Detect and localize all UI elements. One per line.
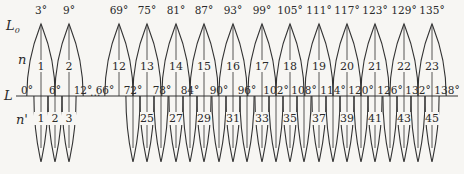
lower-arch bbox=[212, 96, 226, 162]
lower-arch: 41 bbox=[368, 96, 382, 162]
base-axis-label: L bbox=[3, 88, 13, 103]
lower-arch: 27 bbox=[169, 96, 183, 162]
lower-arch: 1 bbox=[34, 96, 48, 162]
base-tick-label: 108° bbox=[291, 84, 316, 96]
upper-n-label: 22 bbox=[397, 60, 411, 73]
upper-row-label: n bbox=[18, 52, 26, 67]
lower-arch: 43 bbox=[397, 96, 411, 162]
lower-row-label: n' bbox=[16, 112, 28, 127]
lower-arch: 2 bbox=[48, 96, 62, 162]
upper-n-label: 15 bbox=[197, 60, 211, 73]
upper-arch: 117°20 bbox=[333, 4, 361, 96]
lower-n-label: 35 bbox=[283, 112, 297, 125]
lower-arch: 39 bbox=[340, 96, 354, 162]
upper-n-label: 1 bbox=[38, 60, 45, 73]
lower-arch: 35 bbox=[283, 96, 297, 162]
upper-arch: 3°1 bbox=[27, 4, 55, 96]
lower-arch bbox=[183, 96, 197, 162]
upper-axis-label: L0 bbox=[5, 18, 20, 35]
upper-arch: 105°18 bbox=[276, 4, 304, 96]
lower-n-label: 31 bbox=[226, 112, 240, 125]
upper-n-label: 2 bbox=[66, 60, 73, 73]
lower-arch bbox=[240, 96, 254, 162]
upper-peak-label: 129° bbox=[391, 4, 416, 16]
upper-peak-label: 9° bbox=[63, 4, 75, 16]
lower-arches-layer: 1232527293133353739414345 bbox=[34, 96, 439, 162]
upper-n-label: 14 bbox=[169, 60, 183, 73]
upper-arch: 129°22 bbox=[390, 4, 418, 96]
lower-n-label: 27 bbox=[169, 112, 183, 125]
upper-arch: 9°2 bbox=[55, 4, 83, 96]
upper-n-label: 19 bbox=[312, 60, 326, 73]
upper-peak-label: 117° bbox=[334, 4, 359, 16]
lower-arch bbox=[383, 96, 397, 162]
upper-peak-label: 3° bbox=[35, 4, 47, 16]
upper-peak-label: 75° bbox=[138, 4, 157, 16]
lower-arch bbox=[126, 96, 140, 162]
upper-peak-label: 105° bbox=[277, 4, 302, 16]
base-tick-label: 114° bbox=[320, 84, 345, 96]
lower-n-label: 41 bbox=[368, 112, 382, 125]
upper-arch: 111°19 bbox=[305, 4, 333, 96]
upper-arch: 81°14 bbox=[162, 4, 190, 96]
lower-n-label: 39 bbox=[340, 112, 354, 125]
base-tick-label: 102° bbox=[263, 84, 288, 96]
upper-arch: 87°15 bbox=[190, 4, 218, 96]
upper-arch: 135°23 bbox=[418, 4, 446, 96]
upper-n-label: 21 bbox=[368, 60, 382, 73]
upper-peak-label: 135° bbox=[419, 4, 444, 16]
upper-peak-label: 99° bbox=[253, 4, 272, 16]
lower-arch bbox=[326, 96, 340, 162]
base-tick-label: 72° bbox=[124, 84, 143, 96]
upper-arch: 69°12 bbox=[105, 4, 133, 96]
lower-n-label: 25 bbox=[140, 112, 154, 125]
upper-n-label: 17 bbox=[255, 60, 269, 73]
lower-n-label: 29 bbox=[197, 112, 211, 125]
lower-arch: 29 bbox=[197, 96, 211, 162]
lower-n-label: 43 bbox=[397, 112, 411, 125]
base-tick-label: 126° bbox=[377, 84, 402, 96]
base-tick-label: 138° bbox=[434, 84, 459, 96]
upper-arch: 93°16 bbox=[219, 4, 247, 96]
upper-n-label: 16 bbox=[226, 60, 240, 73]
upper-peak-label: 87° bbox=[195, 4, 214, 16]
base-tick-label: 0° bbox=[21, 84, 33, 96]
base-tick-label: 120° bbox=[348, 84, 373, 96]
upper-arch: 99°17 bbox=[248, 4, 276, 96]
upper-peak-label: 123° bbox=[362, 4, 387, 16]
lower-n-label: 33 bbox=[255, 112, 269, 125]
base-tick-label: 90° bbox=[210, 84, 229, 96]
upper-peak-label: 69° bbox=[110, 4, 129, 16]
base-tick-label: 96° bbox=[238, 84, 257, 96]
upper-n-label: 13 bbox=[140, 60, 154, 73]
lower-arch: 45 bbox=[425, 96, 439, 162]
lower-n-label: 45 bbox=[425, 112, 439, 125]
lower-arch: 37 bbox=[312, 96, 326, 162]
lower-arch: 31 bbox=[226, 96, 240, 162]
base-tick-label: 132° bbox=[405, 84, 430, 96]
lower-arch bbox=[154, 96, 168, 162]
upper-n-label: 12 bbox=[112, 60, 126, 73]
base-tick-labels: 0°6°12°66°72°78°84°90°96°102°108°114°120… bbox=[21, 84, 460, 96]
lower-arch bbox=[354, 96, 368, 162]
upper-n-label: 18 bbox=[283, 60, 297, 73]
upper-peak-label: 81° bbox=[167, 4, 186, 16]
upper-peak-label: 93° bbox=[224, 4, 243, 16]
base-tick-label: 78° bbox=[153, 84, 172, 96]
wave-arch-diagram: 1232527293133353739414345 3°19°269°1275°… bbox=[0, 0, 464, 174]
lower-arch: 25 bbox=[140, 96, 154, 162]
upper-arch: 123°21 bbox=[361, 4, 389, 96]
lower-arch bbox=[297, 96, 311, 162]
lower-n-label: 1 bbox=[38, 112, 45, 125]
upper-n-label: 23 bbox=[425, 60, 439, 73]
upper-arches-layer: 3°19°269°1275°1381°1487°1593°1699°17105°… bbox=[27, 4, 446, 96]
lower-arch: 33 bbox=[255, 96, 269, 162]
lower-arch bbox=[411, 96, 425, 162]
lower-arch: 3 bbox=[62, 96, 76, 162]
lower-n-label: 37 bbox=[312, 112, 326, 125]
upper-n-label: 20 bbox=[340, 60, 354, 73]
ellipsis: … bbox=[90, 86, 101, 98]
base-tick-label: 6° bbox=[49, 84, 61, 96]
lower-arch bbox=[269, 96, 283, 162]
upper-peak-label: 111° bbox=[306, 4, 331, 16]
